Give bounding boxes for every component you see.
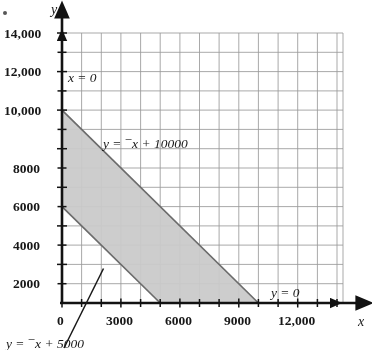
upper-eq-minus-sign: − [125, 134, 132, 147]
lower-eq-prefix: y = [6, 336, 28, 350]
x-axis-label: x [358, 315, 364, 329]
upper-eq-rest: x + 10000 [132, 136, 188, 151]
lower-eq-rest: x + 5000 [35, 336, 84, 350]
y-tick-label-4000: 4000 [13, 239, 40, 253]
x-tick-label-3000: 3000 [106, 314, 133, 328]
y-tick-label-2000: 2000 [13, 277, 40, 291]
x-tick-label-0: 0 [57, 314, 64, 328]
lower-eq-minus-sign: − [28, 334, 35, 347]
y-tick-label-10000: 10,000 [4, 104, 41, 118]
y-tick-label-14000: 14,000 [4, 27, 41, 41]
upper-eq-prefix: y = [103, 136, 125, 151]
y-axis-label: y [51, 3, 57, 17]
annotation-x-equals-zero: x = 0 [68, 71, 97, 85]
annotation-lower-line-equation: y = −x + 5000 [6, 334, 84, 350]
x-tick-label-9000: 9000 [224, 314, 251, 328]
figure-canvas: y x 2000 4000 6000 8000 10,000 12,000 14… [0, 0, 372, 350]
annotation-upper-line-equation: y = −x + 10000 [103, 134, 188, 151]
annotation-y-equals-zero-text: y = 0 [271, 285, 300, 300]
y-tick-label-8000: 8000 [13, 162, 40, 176]
x-tick-label-12000: 12,000 [278, 314, 315, 328]
annotation-y-equals-zero: y = 0 [271, 286, 300, 300]
annotation-x-equals-zero-text: x = 0 [68, 70, 97, 85]
y-tick-label-6000: 6000 [13, 200, 40, 214]
y-tick-label-12000: 12,000 [4, 65, 41, 79]
x-tick-label-6000: 6000 [165, 314, 192, 328]
graph-svg [0, 0, 372, 350]
